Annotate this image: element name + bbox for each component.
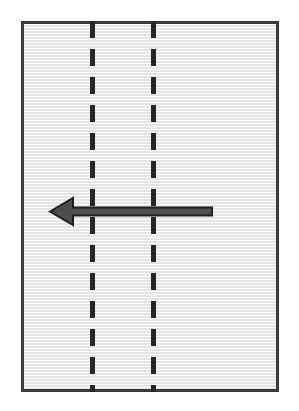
arrow-left-glyph: [50, 198, 212, 225]
direction-arrow-svg: [48, 196, 214, 227]
direction-arrow: [48, 196, 214, 227]
figure-canvas: [0, 0, 299, 411]
